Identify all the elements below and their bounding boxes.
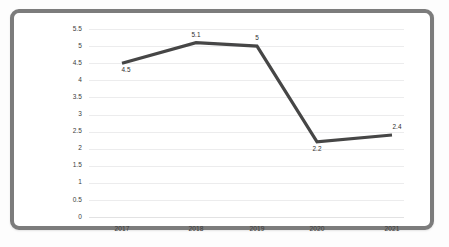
chart-frame: 5.554.543.532.521.510.50 201720182019202… (10, 9, 434, 230)
data-point-label: 2.4 (382, 124, 412, 130)
data-point-label: 5.1 (181, 32, 211, 38)
chart-screenshot: 5.554.543.532.521.510.50 201720182019202… (0, 0, 449, 247)
data-point-label: 4.5 (111, 67, 141, 73)
series-polyline (122, 43, 392, 142)
line-series (14, 13, 438, 234)
data-point-label: 2.2 (302, 146, 332, 152)
data-point-label: 5 (242, 35, 272, 41)
plot-area: 5.554.543.532.521.510.50 201720182019202… (14, 13, 430, 226)
